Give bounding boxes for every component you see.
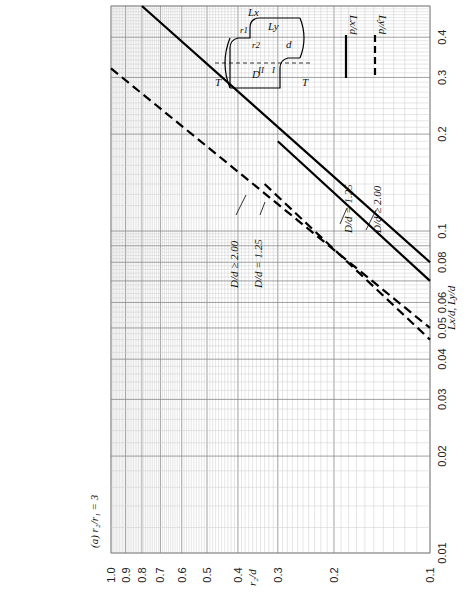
y-tick-label: 0.04 <box>436 348 448 369</box>
y-tick-label: 0.02 <box>436 445 448 466</box>
panel-label: (a) r₂/r₁ = 3 <box>88 494 101 548</box>
annotation-dashed-125: D/d = 1.25 <box>252 239 264 289</box>
x-tick-label: 0.3 <box>272 567 284 582</box>
y-tick-label: 0.03 <box>436 389 448 410</box>
x-tick-label: 0.2 <box>328 567 340 582</box>
legend-solid-label: Lx/d <box>348 14 360 35</box>
y-tick-label: 0.08 <box>436 252 448 273</box>
design-chart: 1.00.90.80.70.60.50.40.30.20.10.010.020.… <box>0 0 468 601</box>
diameter-d-label: d <box>286 38 292 50</box>
y-tick-label: 0.3 <box>436 70 448 85</box>
x-tick-label: 0.7 <box>154 567 166 582</box>
legend-dashed-label: Ly/d <box>377 14 389 35</box>
x-tick-label: 0.5 <box>201 567 213 582</box>
y-tick-label: 0.2 <box>436 126 448 141</box>
x-tick-label: 0.8 <box>136 567 148 582</box>
x-tick-label: 1.0 <box>105 567 117 582</box>
x-axis-title: r₂/d <box>246 569 258 586</box>
x-tick-label: 0.6 <box>176 567 188 582</box>
annotation-dashed-200: D/d ≥ 2.00 <box>228 240 240 289</box>
annotation-solid-200: D/d ≥ 2.00 <box>371 185 383 234</box>
x-tick-label: 0.1 <box>424 567 436 582</box>
Lx-label: Lx <box>247 6 259 18</box>
y-tick-label: 0.1 <box>436 223 448 238</box>
y-tick-label: 0.01 <box>436 542 448 563</box>
x-tick-label: 0.4 <box>232 567 244 582</box>
y-tick-label: 0.4 <box>436 30 448 45</box>
r1-label: r1 <box>240 25 248 35</box>
annotation-solid-125: D/d = 1.25 <box>342 184 354 234</box>
r2-label: r2 <box>252 40 261 50</box>
x-tick-label: 0.9 <box>120 567 132 582</box>
torque-label-right: T <box>302 76 309 88</box>
y-axis-title: Lx/d, Ly/d <box>445 285 457 331</box>
torque-label-left: T <box>215 76 222 88</box>
section-II-label: II <box>257 65 265 75</box>
Ly-label: Ly <box>267 20 279 32</box>
